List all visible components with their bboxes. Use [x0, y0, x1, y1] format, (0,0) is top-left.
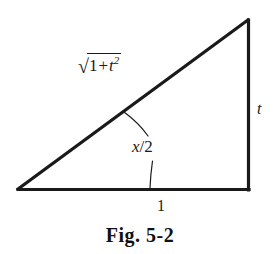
radical-expression: √1+t2 — [78, 53, 121, 76]
hypotenuse-label: √1+t2 — [78, 53, 121, 76]
radicand-exponent: 2 — [114, 54, 120, 66]
triangle-diagram — [0, 0, 280, 254]
radicand-operator: + — [97, 56, 109, 75]
angle-label: x/2 — [132, 138, 153, 155]
radicand: 1+t2 — [87, 53, 121, 74]
angle-numerator: x — [132, 137, 140, 156]
base-side-label: 1 — [157, 198, 165, 214]
vertical-side-label: t — [257, 101, 261, 117]
leader-line-lower — [150, 161, 153, 188]
leader-line-upper — [124, 112, 148, 136]
figure-caption: Fig. 5-2 — [0, 224, 280, 247]
triangle-hypotenuse-side — [18, 20, 248, 189]
angle-denominator: 2 — [144, 137, 153, 156]
figure-container: √1+t2 x/2 t 1 Fig. 5-2 — [0, 0, 280, 254]
